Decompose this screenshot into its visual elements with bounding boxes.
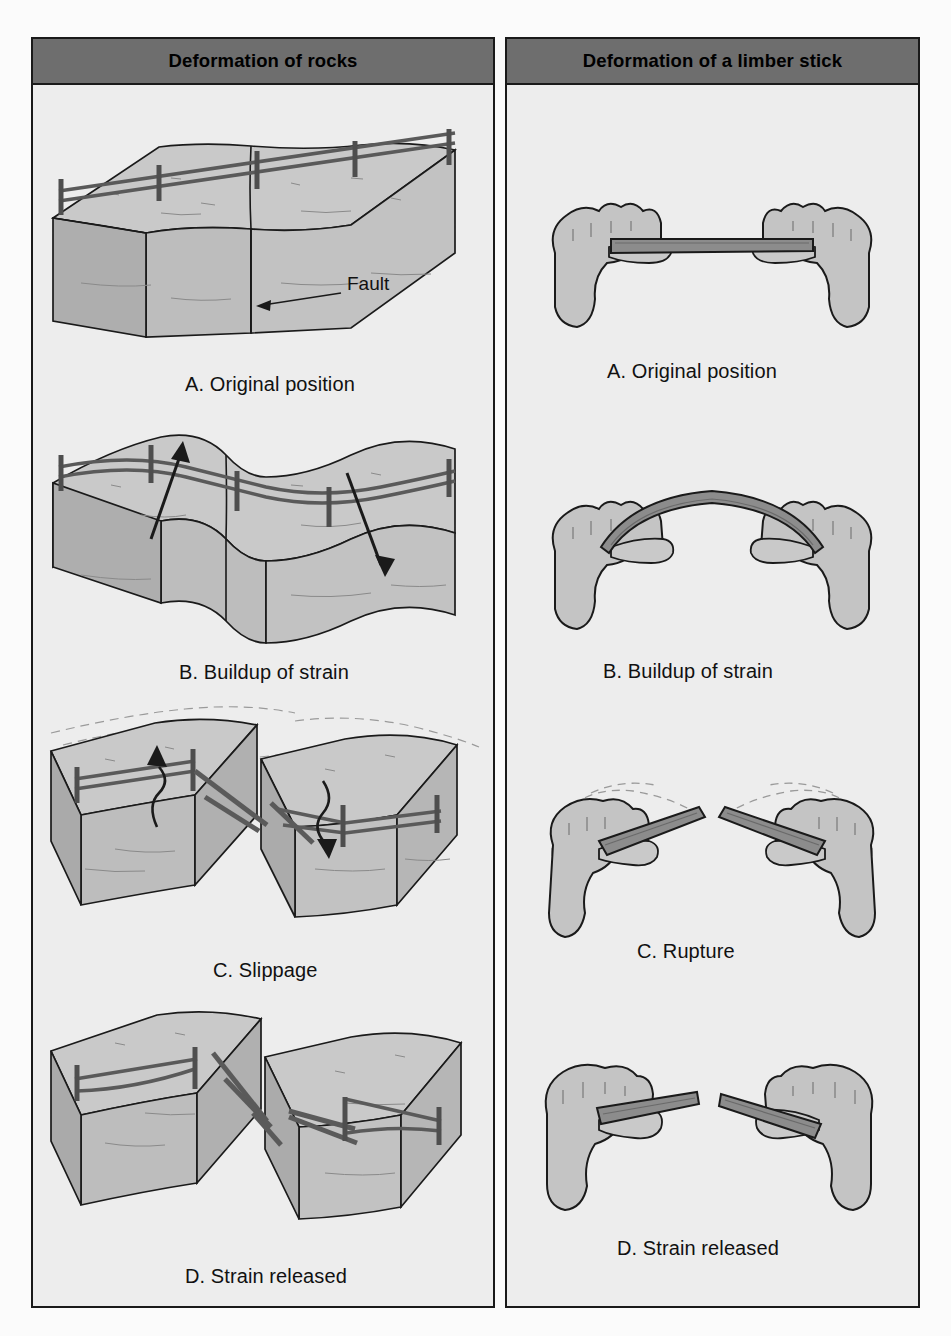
caption-stick-d: D. Strain released — [617, 1237, 779, 1260]
caption-rocks-d: D. Strain released — [185, 1265, 347, 1288]
caption-rocks-c: C. Slippage — [213, 959, 318, 982]
caption-stick-a: A. Original position — [607, 360, 777, 383]
panel-body-stick: A. Original position — [507, 85, 918, 1306]
diagram-stick-a — [537, 195, 887, 345]
right-fist-a — [763, 204, 871, 327]
right-fist-c — [775, 799, 875, 937]
block-front-left — [146, 228, 251, 337]
caption-rocks-a: A. Original position — [185, 373, 355, 396]
diagram-rocks-b — [51, 415, 481, 645]
fault-label: Fault — [347, 273, 389, 295]
panel-deformation-of-rocks: Deformation of rocks — [31, 37, 495, 1308]
panel-title-stick: Deformation of a limber stick — [583, 50, 842, 72]
panel-deformation-of-limber-stick: Deformation of a limber stick — [505, 37, 920, 1308]
caption-rocks-b: B. Buildup of strain — [179, 661, 349, 684]
diagram-stick-b — [537, 475, 887, 655]
stick-a — [611, 239, 813, 253]
panel-title-rocks: Deformation of rocks — [168, 50, 357, 72]
panel-header-stick: Deformation of a limber stick — [507, 39, 918, 85]
diagram-rocks-c — [45, 699, 485, 949]
panel-body-rocks: Fault A. Original position — [33, 85, 493, 1306]
diagram-stick-d — [529, 1050, 889, 1230]
caption-stick-b: B. Buildup of strain — [603, 660, 773, 683]
block-side-left — [53, 218, 146, 337]
left-fist-b — [553, 502, 663, 629]
elastic-rebound-figure: Deformation of rocks — [0, 0, 951, 1336]
left-fist-c — [549, 799, 649, 937]
left-fist-a — [553, 204, 661, 327]
right-fist-b — [761, 502, 871, 629]
diagram-rocks-a: Fault — [51, 133, 481, 363]
panel-header-rocks: Deformation of rocks — [33, 39, 493, 85]
fault-line-b — [226, 455, 227, 621]
diagram-stick-c — [537, 775, 887, 955]
block-front-left-c — [81, 795, 195, 905]
diagram-rocks-d — [45, 993, 485, 1248]
caption-stick-c: C. Rupture — [637, 940, 735, 963]
